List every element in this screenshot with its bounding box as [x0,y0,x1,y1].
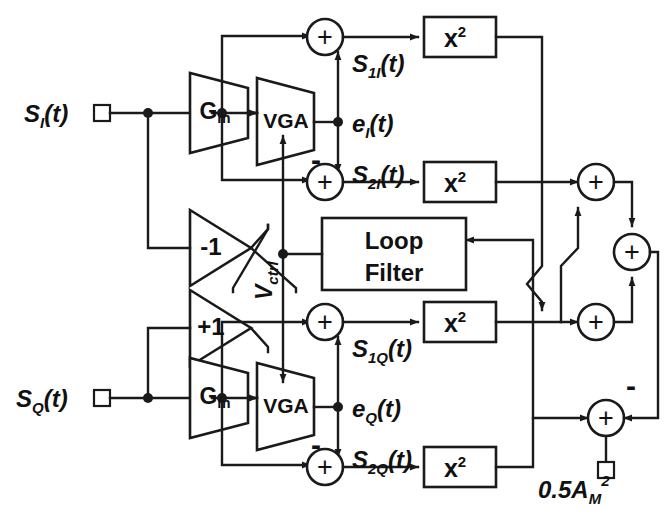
wire-in-q-to-inv [148,328,190,398]
adder-1q-symbol: + [317,307,333,337]
minus-mark-adder-2i: - [311,143,321,176]
wire-sumbot-to-total [614,278,632,322]
input-label-q: SQ(t) [16,385,68,416]
adder-1q[interactable]: + [307,304,343,340]
svg-text:Vctrl: Vctrl [251,260,281,300]
loop-filter-label-line2: Filter [365,259,424,286]
wire-sq2q-to-err [496,418,588,467]
adder-1i[interactable]: + [307,19,343,55]
minus-mark-adder-2q: - [311,428,321,461]
adder-total-symbol: + [624,237,640,267]
wire-in-i-to-inv [148,113,190,248]
adder-sum-bot[interactable]: + [578,304,614,340]
adder-sum-bot-symbol: + [588,307,604,337]
junction-in-q [143,393,153,403]
control-label-vctrl: Vctrl [251,260,281,300]
block-label-plus1: +1 [197,313,224,340]
diagram-canvas: + + [0,0,666,511]
block-label-minus1: -1 [200,233,221,260]
signal-label-s2i: S2I(t) [352,161,405,192]
adder-sum-top-symbol: + [588,167,604,197]
adder-sum-top[interactable]: + [578,164,614,200]
signal-label-eq: eQ(t) [352,395,401,426]
input-label-i: SI(t) [24,100,68,131]
adder-error[interactable]: + [588,400,624,436]
signal-label-ei: eI(t) [352,110,394,141]
adder-error-symbol: + [598,403,614,433]
block-label-vga-q: VGA [263,394,309,417]
wire-sq1q-cross-up [561,208,578,322]
adder-1i-symbol: + [317,22,333,52]
input-port-q[interactable] [94,390,110,406]
signal-label-s1q: S1Q(t) [352,335,412,366]
loop-filter-label-line1: Loop [365,227,424,254]
block-label-vga-i: VGA [263,109,309,132]
signal-label-s2q: S2Q(t) [352,446,412,477]
wire-sq1i-cross-down [496,37,542,310]
signal-label-s1i: S1I(t) [352,50,405,81]
minus-mark-adder-error: - [626,369,636,402]
adder-total[interactable]: + [614,234,650,270]
input-port-i[interactable] [94,105,110,121]
block-diagram-figure: + + [0,0,666,511]
wire-sumtop-to-total [614,182,632,226]
